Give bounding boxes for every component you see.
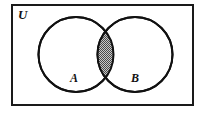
set-a-label: A <box>69 71 78 85</box>
set-b-label: B <box>130 71 139 85</box>
venn-diagram-figure: U A B <box>0 0 207 114</box>
universal-set-label: U <box>18 7 28 22</box>
venn-diagram-canvas: U A B <box>0 0 207 114</box>
